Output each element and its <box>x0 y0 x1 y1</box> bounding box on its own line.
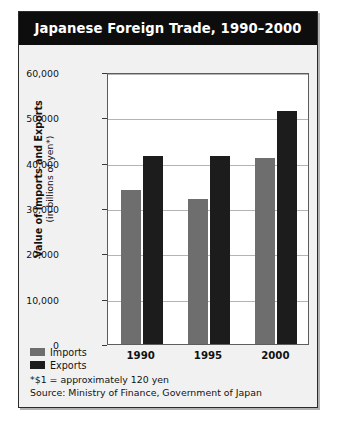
legend-item-imports: Imports <box>30 346 87 358</box>
bar-imports-1995 <box>188 199 208 344</box>
page-title: Japanese Foreign Trade, 1990–2000 <box>34 21 301 36</box>
bar-imports-2000 <box>255 158 275 344</box>
chart-figure: Japanese Foreign Trade, 1990–2000 Value … <box>18 11 318 408</box>
chart-title-bar: Japanese Foreign Trade, 1990–2000 <box>19 12 317 45</box>
legend-label-exports: Exports <box>50 360 86 371</box>
legend-swatch-imports <box>30 348 45 356</box>
y-axis-tick-mark <box>102 345 107 346</box>
y-axis-tick-label: 10,000 <box>0 294 59 305</box>
chart-note-2: Source: Ministry of Finance, Government … <box>30 387 262 398</box>
chart-note-1: *$1 = approximately 120 yen <box>30 374 262 385</box>
chart-region: Value of Imports and Exports (in billion… <box>19 45 317 407</box>
legend-swatch-exports <box>30 361 45 369</box>
y-axis-tick-label: 40,000 <box>0 158 59 169</box>
x-axis-tick-label-1995: 1995 <box>194 350 222 361</box>
plot-area <box>107 73 309 345</box>
y-axis-tick-label: 20,000 <box>0 249 59 260</box>
chart-notes: *$1 = approximately 120 yenSource: Minis… <box>30 374 262 400</box>
y-axis-tick-label: 30,000 <box>0 204 59 215</box>
y-axis-tick-label: 50,000 <box>0 113 59 124</box>
x-axis-tick-label-1990: 1990 <box>126 350 154 361</box>
gridline <box>108 74 308 75</box>
bar-exports-2000 <box>277 111 297 344</box>
x-axis-tick-label-2000: 2000 <box>261 350 289 361</box>
legend-label-imports: Imports <box>50 347 87 358</box>
chart-legend: ImportsExports <box>30 346 87 372</box>
bar-exports-1990 <box>143 156 163 344</box>
bar-exports-1995 <box>210 156 230 344</box>
y-axis-tick-label: 60,000 <box>0 68 59 79</box>
bar-imports-1990 <box>121 190 141 344</box>
legend-item-exports: Exports <box>30 359 87 371</box>
